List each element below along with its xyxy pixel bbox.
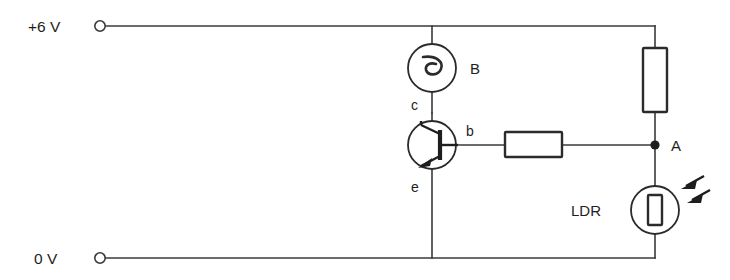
label-ground-rail: 0 V bbox=[34, 250, 58, 267]
pullup-resistor-body-icon bbox=[643, 48, 667, 112]
base-resistor-component bbox=[505, 132, 562, 157]
ldr-component bbox=[631, 176, 710, 234]
label-ldr: LDR bbox=[571, 202, 601, 219]
label-collector: c bbox=[411, 97, 418, 113]
label-bell: B bbox=[470, 60, 480, 77]
terminal-ground bbox=[95, 253, 105, 263]
bell-body-icon bbox=[408, 44, 456, 92]
node-a-junction bbox=[650, 140, 659, 149]
pullup-resistor-component bbox=[643, 48, 667, 112]
label-emitter: e bbox=[411, 179, 419, 195]
bell-component bbox=[408, 44, 456, 92]
wire-network bbox=[106, 26, 655, 258]
transistor-component bbox=[408, 121, 458, 169]
junction-dot-icon bbox=[650, 140, 659, 149]
label-positive-rail: +6 V bbox=[28, 18, 61, 35]
label-node-a: A bbox=[671, 137, 681, 154]
terminal-circle-icon bbox=[95, 253, 105, 263]
circuit-canvas: +6 V 0 V B c b e A LDR bbox=[0, 0, 730, 280]
ldr-resistor-body-icon bbox=[648, 195, 662, 225]
circuit-diagram: +6 V 0 V B c b e A LDR bbox=[0, 0, 730, 280]
base-resistor-body-icon bbox=[505, 132, 562, 157]
terminal-circle-icon bbox=[95, 21, 105, 31]
terminal-positive bbox=[95, 21, 105, 31]
label-base: b bbox=[466, 123, 474, 139]
light-arrows-icon bbox=[681, 176, 710, 203]
